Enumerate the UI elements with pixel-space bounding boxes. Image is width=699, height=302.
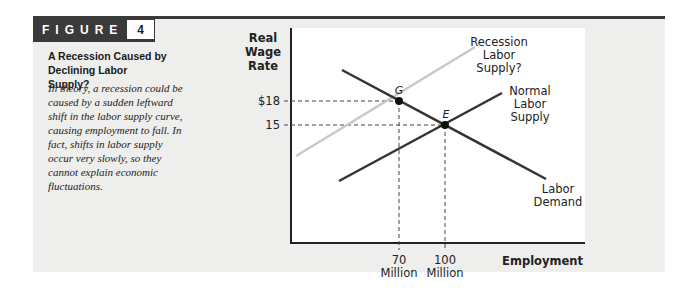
recession-supply-label-line-2: Labor <box>483 48 516 62</box>
normal-supply-label-line-3: Supply <box>510 110 549 124</box>
y-axis-label-line-3: Rate <box>248 59 278 73</box>
x-tick-70-unit: Million <box>380 266 417 280</box>
point-g-marker <box>395 97 403 105</box>
x-axis-label: Employment <box>502 254 583 268</box>
x-tick-100-unit: Million <box>426 266 463 280</box>
normal-supply-label-line-1: Normal <box>509 84 551 98</box>
normal-supply-label-line-2: Labor <box>514 97 547 111</box>
y-tick-18: $18 <box>258 94 280 108</box>
recession-supply-label-line-1: Recession <box>470 35 527 49</box>
y-tick-15: 15 <box>265 118 280 132</box>
point-g-label: G <box>395 84 404 97</box>
x-tick-100-value: 100 <box>434 253 456 267</box>
labor-market-chart: Real Wage Rate Employment $18 15 70 Mill… <box>0 0 699 302</box>
recession-supply-label-line-3: Supply? <box>476 61 521 75</box>
plot-area <box>291 28 585 243</box>
x-tick-70-value: 70 <box>392 253 407 267</box>
point-e-label: E <box>443 108 450 121</box>
labor-demand-label-line-1: Labor <box>542 182 575 196</box>
point-e-marker <box>441 121 449 129</box>
labor-demand-label-line-2: Demand <box>534 195 583 209</box>
y-axis-label-line-1: Real <box>249 31 277 45</box>
y-axis-label-line-2: Wage <box>245 45 281 59</box>
